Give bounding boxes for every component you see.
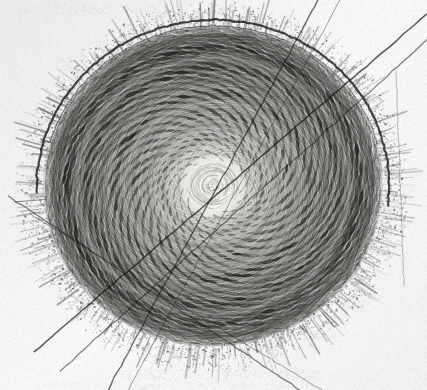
sunflower-phyllotaxis-illustration <box>0 0 427 390</box>
scanned-illustration-page: sunflower-seed-head-phyllotaxis <box>0 0 427 390</box>
